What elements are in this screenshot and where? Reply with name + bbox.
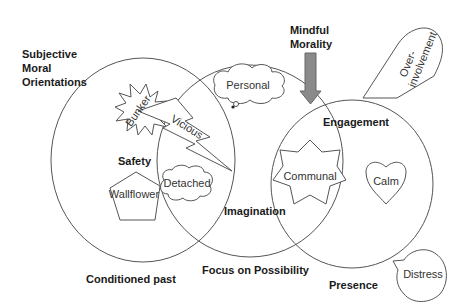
calm-label: Calm [373, 175, 399, 187]
conditioned-past-label: Conditioned past [86, 273, 176, 285]
imagination-label: Imagination [224, 205, 286, 217]
communal-label: Communal [283, 170, 336, 182]
safety-label: Safety [118, 155, 152, 167]
moral-orientations-diagram: Subjective Moral Orientations Mindful Mo… [0, 0, 466, 308]
mindful-morality-label: Mindful Morality [290, 24, 333, 50]
engagement-label: Engagement [323, 116, 389, 128]
detached-label: Detached [163, 177, 210, 189]
diagram-title: Subjective Moral Orientations [22, 48, 87, 88]
presence-label: Presence [329, 279, 378, 291]
distress-label: Distress [403, 268, 443, 280]
focus-on-possibility-label: Focus on Possibility [202, 264, 310, 276]
wallflower-label: Wallflower [109, 188, 160, 200]
mindful-morality-arrow-icon [300, 53, 321, 104]
personal-label: Personal [226, 79, 269, 91]
